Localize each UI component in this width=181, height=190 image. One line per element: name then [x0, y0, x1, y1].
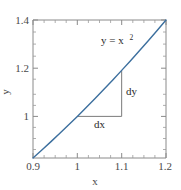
- curve-equation-exponent: 2: [130, 33, 134, 42]
- dx-label: dx: [94, 118, 106, 130]
- curve-equation-text: y = x: [101, 34, 124, 46]
- y-axis-title: y: [0, 89, 11, 95]
- dy-label: dy: [126, 85, 138, 97]
- x-tick-label-1: 1: [75, 160, 81, 172]
- plot-area: 0.9 1 1.1 1.2 1 1.2 1.4 x y y = x 2 dy d…: [0, 0, 181, 190]
- plot-background: [33, 20, 166, 158]
- x-tick-label-2: 1.1: [115, 160, 129, 172]
- y-tick-label-0: 1: [24, 110, 30, 122]
- chart-figure: 0.9 1 1.1 1.2 1 1.2 1.4 x y y = x 2 dy d…: [0, 0, 181, 190]
- y-tick-label-2: 1.4: [15, 14, 29, 26]
- x-tick-label-3: 1.2: [158, 160, 172, 172]
- x-tick-label-0: 0.9: [26, 160, 40, 172]
- x-axis-title: x: [92, 175, 98, 187]
- y-tick-label-1: 1.2: [15, 62, 29, 74]
